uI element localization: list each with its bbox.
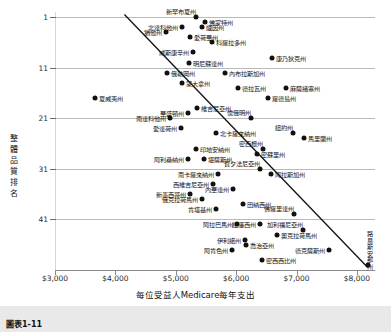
data-point xyxy=(164,70,169,75)
data-point-label: 明尼蘇達州 xyxy=(193,59,223,66)
data-point xyxy=(199,197,204,202)
data-point-label: 密西根州 xyxy=(239,139,263,146)
data-point-label: 加利福尼亞州 xyxy=(267,220,303,227)
data-point-label: 阿拉巴馬州 xyxy=(203,221,233,228)
y-tick-label: 1 xyxy=(43,13,48,22)
data-point xyxy=(229,247,234,252)
data-point xyxy=(190,50,195,55)
y-tick-mark xyxy=(50,169,56,170)
data-point xyxy=(249,116,254,121)
data-point-label: 印地安納州 xyxy=(200,145,230,152)
data-point xyxy=(187,60,192,65)
data-point-label: 密西西比州 xyxy=(266,256,296,263)
data-point-label: 喬治亞州 xyxy=(250,241,274,248)
scatter-plot-area: 111213141 $3,000$4,000$5,000$6,000$7,000… xyxy=(55,12,375,270)
x-tick-label: $7,000 xyxy=(283,274,309,283)
data-point xyxy=(266,96,271,101)
data-point xyxy=(179,80,184,85)
data-point xyxy=(258,222,263,227)
data-point xyxy=(275,232,280,237)
data-point-label: 路易斯安那州 xyxy=(366,231,374,270)
data-point xyxy=(209,40,214,45)
x-tick-label: $5,000 xyxy=(163,274,189,283)
data-point-label: 麻薩諸塞州 xyxy=(290,84,320,91)
y-tick-label: 31 xyxy=(38,164,48,173)
data-point-label: 俄勒岡州 xyxy=(171,69,195,76)
data-point-label: 伊利諾州 xyxy=(217,236,241,243)
page-bottom-band xyxy=(0,306,391,332)
data-point xyxy=(193,15,198,20)
figure-container: 整體品質排名 每位受益人Medicare每年支出 111213141 $3,00… xyxy=(0,0,391,332)
data-point-label: 愛達荷州 xyxy=(153,125,177,132)
data-point xyxy=(195,106,200,111)
data-point xyxy=(216,171,221,176)
data-point xyxy=(244,242,249,247)
y-tick-label: 21 xyxy=(38,114,48,123)
data-point xyxy=(200,25,205,30)
y-tick-mark xyxy=(50,219,56,220)
data-point xyxy=(185,156,190,161)
data-point xyxy=(269,171,274,176)
x-tick-label: $8,000 xyxy=(344,274,370,283)
data-point xyxy=(187,35,192,40)
data-point xyxy=(240,202,245,207)
figure-caption: 圖表1-11 xyxy=(6,318,42,329)
y-tick-label: 41 xyxy=(38,215,48,224)
data-point-label: 北卡羅來納州 xyxy=(220,130,256,137)
data-point-label: 威斯康辛州 xyxy=(159,49,189,56)
data-point xyxy=(223,70,228,75)
data-point xyxy=(164,30,169,35)
data-point-label: 阿利桑納州 xyxy=(154,155,184,162)
data-point-label: 南卡羅來納州 xyxy=(178,170,214,177)
gridline xyxy=(55,68,375,69)
data-point xyxy=(258,166,263,171)
data-point xyxy=(230,187,235,192)
data-point-label: 緬因州 xyxy=(206,24,224,31)
data-point xyxy=(270,55,275,60)
data-point-label: 新罕布夏州 xyxy=(166,8,196,15)
data-point xyxy=(327,247,332,252)
y-axis-line xyxy=(55,12,56,270)
data-point xyxy=(292,212,297,217)
data-point xyxy=(185,111,190,116)
y-tick-label: 11 xyxy=(38,63,48,72)
data-point-label: 懷俄明州 xyxy=(227,109,251,116)
data-point xyxy=(255,151,260,156)
data-point-label: 南達科他州 xyxy=(136,115,166,122)
x-tick-label: $3,000 xyxy=(42,274,68,283)
data-point xyxy=(235,85,240,90)
x-tick-label: $4,000 xyxy=(102,274,128,283)
data-point xyxy=(214,207,219,212)
data-point xyxy=(213,131,218,136)
y-tick-mark xyxy=(50,118,56,119)
data-point-label: 賓夕法尼亞州 xyxy=(224,159,260,166)
x-axis-line xyxy=(55,270,375,271)
data-point-label: 猶他州 xyxy=(144,29,162,36)
gridline xyxy=(55,169,375,170)
x-axis-title: 每位受益人Medicare每年支出 xyxy=(0,288,391,300)
data-point-label: 馬里蘭州 xyxy=(308,135,332,142)
gridline xyxy=(55,118,375,119)
data-point xyxy=(290,131,295,136)
data-point-label: 俄克拉荷馬州 xyxy=(162,196,198,203)
data-point-label: 紐約州 xyxy=(275,124,293,131)
data-point xyxy=(202,156,207,161)
data-point-label: 阿肯色州 xyxy=(204,246,228,253)
x-tick-label: $6,000 xyxy=(223,274,249,283)
data-point xyxy=(179,25,184,30)
data-point-label: 奧克拉荷馬州 xyxy=(281,231,317,238)
data-point-label: 內華達州 xyxy=(205,186,229,193)
data-point xyxy=(284,85,289,90)
data-point xyxy=(93,96,98,101)
data-point-label: 羅德島州 xyxy=(272,95,296,102)
data-point xyxy=(301,136,306,141)
data-point-label: 肯塔基州 xyxy=(188,206,212,213)
data-point-label: 密蘇里州 xyxy=(261,150,285,157)
y-tick-mark xyxy=(50,68,56,69)
data-point xyxy=(260,257,265,262)
data-point-label: 內布拉斯加州 xyxy=(229,69,265,76)
data-point xyxy=(178,126,183,131)
data-point-label: 康乃狄克州 xyxy=(276,54,306,61)
data-point-label: 紐澤西州 xyxy=(232,221,256,228)
data-point-label: 德拉瓦州 xyxy=(242,84,266,91)
